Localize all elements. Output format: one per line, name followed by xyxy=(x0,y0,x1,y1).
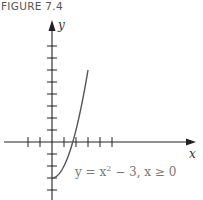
x-axis-arrow xyxy=(186,139,196,146)
chart: x y y = x2 − 3, x ≥ 0 xyxy=(0,0,203,200)
y-axis-label: y xyxy=(57,18,65,32)
series xyxy=(52,70,88,178)
y-axis-arrow xyxy=(49,20,56,31)
series-curve xyxy=(52,70,88,178)
eq-part-1: y = x xyxy=(74,165,106,179)
eq-part-2: − 3, x ≥ 0 xyxy=(111,165,176,179)
x-axis-label: x xyxy=(189,147,196,161)
equation-annotation: y = x2 − 3, x ≥ 0 xyxy=(74,164,176,179)
